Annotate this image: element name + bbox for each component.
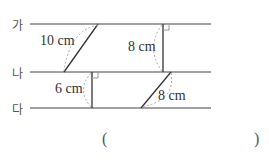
parallel-lines-diagram [0,0,269,161]
right-angle-mark-bottom [92,72,98,78]
answer-close-paren: ) [254,130,259,148]
right-angle-mark-top [163,24,169,30]
arc-perp-bottom [84,73,92,107]
measure-perp-top: 8 cm [128,39,156,55]
label-ga: 가 [12,16,23,33]
label-na: 나 [12,64,23,81]
label-da: 다 [12,100,23,117]
measure-perp-bottom: 6 cm [55,81,83,97]
answer-open-paren: ( [102,130,107,148]
measure-slant-bottom: 8 cm [158,88,186,104]
measure-slant-top: 10 cm [40,33,75,49]
